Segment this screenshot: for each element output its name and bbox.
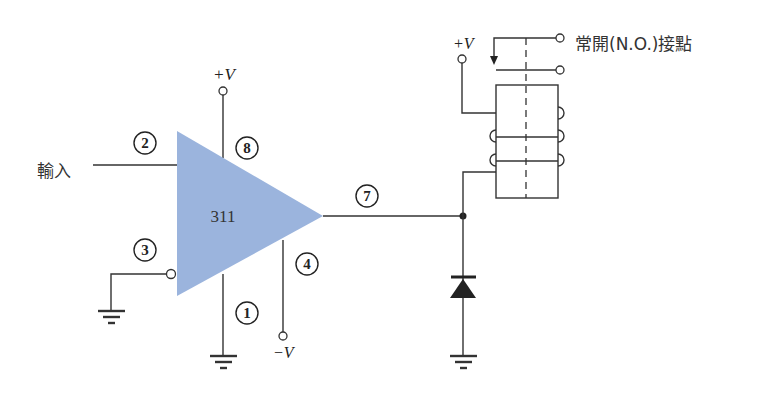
- ground-icon: [98, 311, 125, 323]
- inverting-input-bubble: [167, 270, 176, 279]
- vplus-relay-terminal: [458, 55, 466, 63]
- diode-icon: [450, 277, 476, 298]
- vplus-chip-terminal: [219, 87, 227, 95]
- vplus-relay-label: +V: [453, 35, 476, 52]
- pin3-ground-path: [111, 270, 176, 312]
- comparator-label: 311: [211, 207, 236, 226]
- pin-7-marker: 7: [356, 185, 378, 207]
- vminus-label: −V: [273, 344, 296, 361]
- ground-icon: [450, 356, 477, 368]
- relay-contact-switch: [490, 34, 564, 74]
- svg-text:7: 7: [363, 188, 371, 204]
- svg-text:2: 2: [141, 135, 149, 151]
- svg-text:8: 8: [243, 140, 251, 156]
- coil-top-wire: [462, 63, 496, 113]
- coil-bottom-wire: [463, 172, 496, 216]
- vminus-terminal: [279, 332, 287, 340]
- svg-text:4: 4: [303, 256, 311, 272]
- ground-icon: [210, 356, 237, 368]
- input-label: 輸入: [37, 161, 71, 181]
- svg-text:3: 3: [141, 242, 149, 258]
- circuit-diagram: 輸入 +V −V 311 2 8 3 4: [0, 0, 758, 401]
- pin-1-marker: 1: [236, 302, 258, 324]
- relay-coil: [490, 85, 564, 198]
- normally-open-contact-label: 常開(N.O.)接點: [575, 34, 692, 54]
- pin-4-marker: 4: [296, 253, 318, 275]
- pin-2-marker: 2: [134, 132, 156, 154]
- svg-text:1: 1: [243, 305, 251, 321]
- pin-3-marker: 3: [134, 239, 156, 261]
- vplus-chip-label: +V: [213, 65, 237, 84]
- pin-8-marker: 8: [236, 137, 258, 159]
